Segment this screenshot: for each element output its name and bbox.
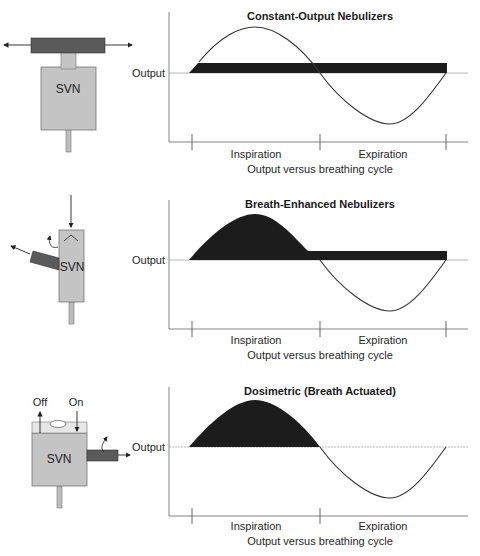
stem <box>69 302 74 324</box>
mouthpiece-tube <box>31 38 105 53</box>
phase-label-inspiration: Inspiration <box>231 334 282 346</box>
device-breath-enhanced: SVN <box>11 195 84 324</box>
mouthpiece-tube <box>87 450 118 461</box>
panel-constant-output: SVN Constant-Output Nebulizers Output In… <box>4 10 468 175</box>
breathing-curve <box>320 260 446 311</box>
phase-label-expiration: Expiration <box>359 334 408 346</box>
breathing-curve <box>320 447 446 498</box>
label-off: Off <box>33 396 48 408</box>
svn-label: SVN <box>47 452 72 466</box>
device-constant-output: SVN <box>4 38 132 152</box>
svn-label: SVN <box>56 82 81 96</box>
arrow-out <box>11 246 30 254</box>
phase-label-expiration: Expiration <box>359 148 408 160</box>
phase-label-inspiration: Inspiration <box>231 520 282 532</box>
stem <box>66 128 71 152</box>
label-on: On <box>69 396 84 408</box>
valve-button <box>50 421 66 428</box>
chart-constant-output: Constant-Output Nebulizers Output Inspir… <box>132 10 468 175</box>
phase-label-inspiration: Inspiration <box>231 148 282 160</box>
y-label: Output <box>132 441 165 453</box>
panel-breath-enhanced: SVN Breath-Enhanced Nebulizers Output In… <box>11 195 468 361</box>
mouthpiece-tube <box>30 251 59 270</box>
svn-label: SVN <box>60 260 85 274</box>
y-label: Output <box>132 254 165 266</box>
breathing-curve <box>199 27 446 124</box>
chart-title: Breath-Enhanced Nebulizers <box>245 198 395 210</box>
chart-breath-enhanced: Breath-Enhanced Nebulizers Output Inspir… <box>132 198 468 361</box>
arrow-exhaled <box>49 236 58 248</box>
svn-body <box>41 67 96 130</box>
nebulizer-diagram: SVN Constant-Output Nebulizers Output In… <box>0 0 480 556</box>
chart-caption: Output versus breathing cycle <box>247 535 393 547</box>
chart-caption: Output versus breathing cycle <box>247 163 393 175</box>
y-label: Output <box>132 67 165 79</box>
output-area <box>189 214 447 260</box>
device-dosimetric: Off On SVN <box>32 396 130 508</box>
chart-title: Constant-Output Nebulizers <box>247 10 393 22</box>
chart-title: Dosimetric (Breath Actuated) <box>244 385 396 397</box>
chart-caption: Output versus breathing cycle <box>247 349 393 361</box>
neck <box>61 52 76 69</box>
output-band <box>189 63 447 73</box>
output-area <box>189 400 320 447</box>
stem <box>57 486 62 508</box>
phase-label-expiration: Expiration <box>359 520 408 532</box>
chart-dosimetric: Dosimetric (Breath Actuated) Output Insp… <box>132 385 468 547</box>
panel-dosimetric: Off On SVN Dosimetric (Breath Actuated) … <box>32 385 468 547</box>
